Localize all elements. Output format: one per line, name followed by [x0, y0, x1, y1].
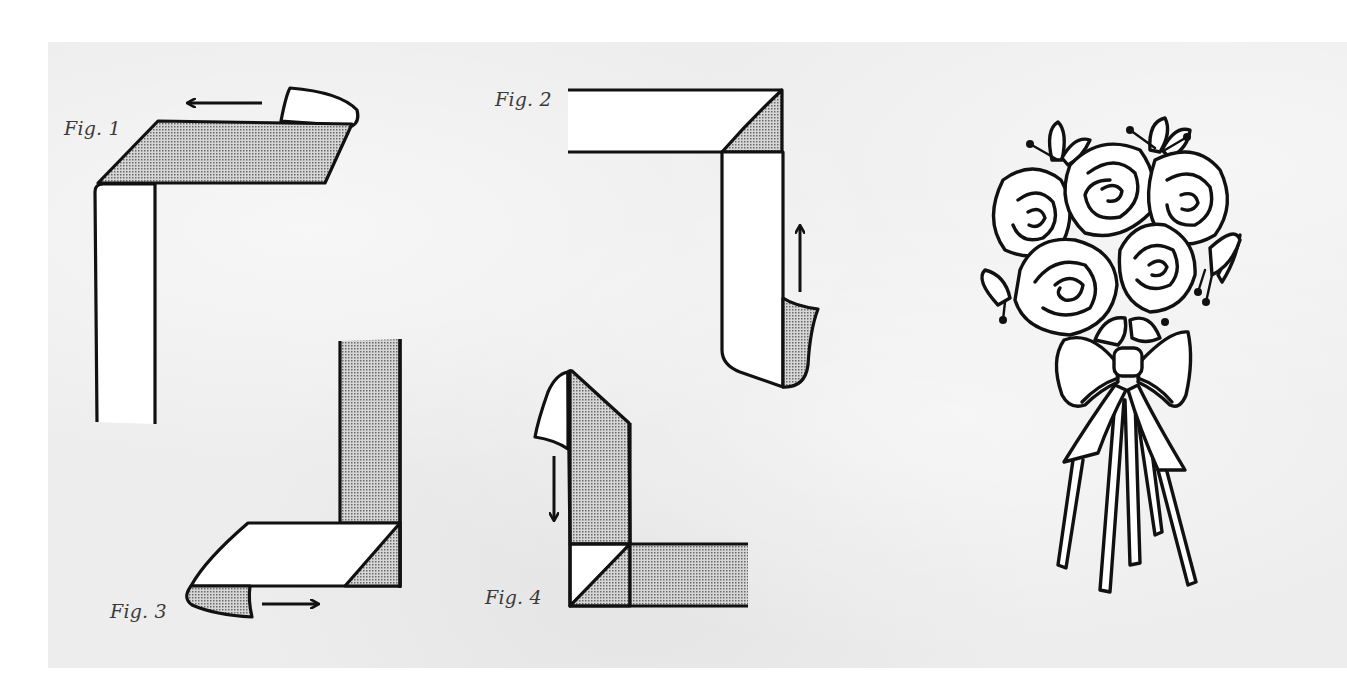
figure-3-label: Fig. 3 [110, 600, 167, 622]
leaf [1050, 122, 1065, 160]
ribbon-curl-end [783, 298, 818, 387]
rose [1119, 224, 1195, 312]
figure-2-label: Fig. 2 [495, 88, 552, 110]
figure-3 [187, 339, 400, 617]
ribbon-curl-end [187, 586, 252, 617]
bow-knot [1114, 348, 1142, 376]
ribbon-vertical-strip [722, 152, 783, 387]
leaf [1130, 318, 1160, 341]
ribbon-shaded-band [98, 121, 352, 183]
ribbon-curl-flap [281, 88, 358, 126]
figure-4 [535, 371, 748, 606]
rose [1065, 144, 1154, 235]
ribbon-folded-flap [535, 372, 568, 449]
figure-1-label: Fig. 1 [64, 117, 121, 139]
leaf [982, 270, 1010, 305]
ribbon-streamer [1158, 468, 1196, 585]
ribbon-streamer [1058, 460, 1083, 568]
ribbon-vertical-strip [95, 184, 155, 424]
rose [1015, 239, 1117, 335]
ribbon-vertical-shaded [340, 339, 400, 523]
ribbon-vertical-shaded [568, 371, 630, 544]
rose-bouquet-illustration [982, 118, 1240, 592]
figure-1 [95, 88, 358, 424]
ribbon-horizontal-shaded [630, 544, 748, 606]
ribbon-folding-diagram [0, 0, 1347, 683]
figure-2 [568, 90, 818, 387]
figure-4-label: Fig. 4 [485, 586, 542, 608]
